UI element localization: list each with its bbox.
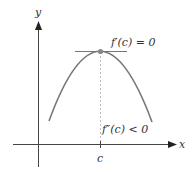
- y-axis-arrow-icon: [35, 21, 42, 30]
- concavity-diagram: y x c f′(c) = 0 f″(c) < 0: [0, 0, 193, 173]
- first-derivative-annotation: f′(c) = 0: [110, 36, 156, 49]
- critical-point: [98, 49, 103, 54]
- x-axis-arrow-icon: [168, 141, 177, 148]
- x-axis-label: x: [179, 138, 186, 151]
- y-axis-label: y: [34, 6, 42, 19]
- second-derivative-annotation: f″(c) < 0: [101, 123, 148, 136]
- tick-label-c: c: [97, 152, 103, 165]
